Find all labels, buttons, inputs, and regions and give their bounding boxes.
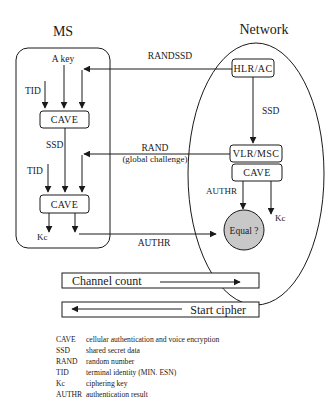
legend-desc: shared secret data	[86, 345, 140, 356]
legend-abbr: SSD	[56, 345, 86, 356]
ms-ssd-label: SSD	[46, 140, 64, 150]
network-kc-label: Kc	[275, 213, 286, 223]
legend-abbr: TID	[56, 367, 86, 378]
legend-abbr: CAVE	[56, 334, 86, 345]
authr-message-label: AUTHR	[138, 238, 171, 248]
legend-desc: cellular authentication and voice encryp…	[86, 334, 219, 345]
start-cipher-label: Start cipher	[190, 303, 246, 317]
legend-abbr: RAND	[56, 356, 86, 367]
network-cave-label: CAVE	[243, 167, 271, 178]
ms-kc-label: Kc	[37, 232, 48, 242]
channel-count-label: Channel count	[72, 274, 142, 288]
tid-label-2: TID	[27, 166, 43, 176]
legend-row-cave: CAVE cellular authentication and voice e…	[56, 334, 219, 345]
legend-abbr: AUTHR	[56, 389, 86, 400]
network-title: Network	[240, 22, 289, 37]
a-key-label: A key	[52, 54, 75, 64]
equal-label: Equal ?	[230, 226, 259, 236]
ms-title: MS	[53, 24, 73, 39]
legend: CAVE cellular authentication and voice e…	[56, 334, 219, 401]
legend-row-kc: Kc ciphering key	[56, 378, 219, 389]
legend-desc: authentication result	[86, 389, 148, 400]
legend-row-ssd: SSD shared secret data	[56, 345, 219, 356]
legend-desc: ciphering key	[86, 378, 128, 389]
ms-cave-label-2: CAVE	[51, 199, 79, 210]
legend-desc: terminal identity (MIN. ESN)	[86, 367, 176, 378]
legend-row-tid: TID terminal identity (MIN. ESN)	[56, 367, 219, 378]
network-authr-label: AUTHR	[206, 186, 237, 196]
tid-label-1: TID	[25, 86, 41, 96]
rand-sub-label: (global challenge)	[122, 154, 187, 164]
hlr-ac-label: HLR/AC	[233, 63, 272, 74]
ms-cave-label-1: CAVE	[51, 114, 79, 125]
rand-label: RAND	[142, 143, 169, 153]
network-ssd-label: SSD	[262, 106, 280, 116]
legend-abbr: Kc	[56, 378, 86, 389]
legend-desc: random number	[86, 356, 134, 367]
randssd-label: RANDSSD	[148, 51, 192, 61]
legend-row-rand: RAND random number	[56, 356, 219, 367]
vlr-msc-label: VLR/MSC	[233, 148, 280, 159]
legend-row-authr: AUTHR authentication result	[56, 389, 219, 400]
